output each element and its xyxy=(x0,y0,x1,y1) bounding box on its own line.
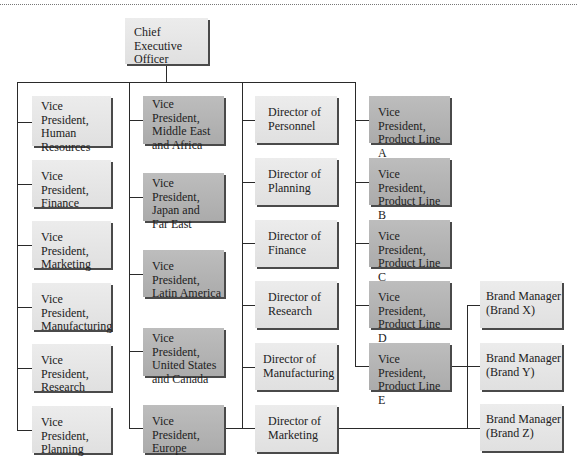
box-vp-marketing[interactable]: Vice President, Marketing xyxy=(32,221,111,268)
stub xyxy=(129,197,143,198)
box-director-personnel[interactable]: Director of Personnel xyxy=(255,96,337,143)
box-label: Vice President, Research xyxy=(41,354,111,395)
stub xyxy=(355,305,369,306)
stub xyxy=(242,182,255,183)
box-vp-us-canada[interactable]: Vice President, United States and Canada xyxy=(143,328,224,376)
stub xyxy=(355,182,369,183)
box-vp-finance[interactable]: Vice President, Finance xyxy=(32,160,111,207)
box-vp-human-resources[interactable]: Vice President, Human Resources xyxy=(32,96,111,146)
box-label: Vice President, Product Line E xyxy=(378,353,450,407)
box-director-marketing[interactable]: Director of Marketing xyxy=(255,405,337,452)
box-label: Director of Planning xyxy=(268,168,337,195)
box-label: Director of Finance xyxy=(268,230,337,257)
box-label: Director of Personnel xyxy=(268,106,337,133)
box-vp-europe[interactable]: Vice President, Europe xyxy=(143,405,224,453)
stub xyxy=(17,245,32,246)
box-vp-product-line-e[interactable]: Vice President, Product Line E xyxy=(369,343,450,390)
stub xyxy=(129,120,143,121)
stub xyxy=(17,184,32,185)
brand-vertical-line xyxy=(467,305,468,429)
box-label: Vice President, Latin America xyxy=(152,260,224,301)
product-e-brand-connector xyxy=(450,366,480,367)
box-brand-manager-x[interactable]: Brand Manager (Brand X) xyxy=(480,281,562,328)
stub xyxy=(242,120,255,121)
col3-vertical-line xyxy=(242,82,243,428)
box-vp-product-line-a[interactable]: Vice President, Product Line A xyxy=(369,96,450,143)
box-label: Vice President, Product Line B xyxy=(378,168,450,222)
box-label: Vice President, Manufacturing xyxy=(41,293,111,334)
col4-top-connector xyxy=(322,82,356,83)
stub xyxy=(355,366,369,367)
box-vp-manufacturing[interactable]: Vice President, Manufacturing xyxy=(32,283,111,330)
box-label: Vice President, Product Line D xyxy=(378,291,450,345)
main-horizontal-line xyxy=(17,82,323,83)
stub xyxy=(355,120,369,121)
box-vp-middle-east-africa[interactable]: Vice President, Middle East and Africa xyxy=(143,96,224,144)
col1-vertical-line xyxy=(17,82,18,431)
box-label: Vice President, Middle East and Africa xyxy=(152,98,224,152)
box-director-research[interactable]: Director of Research xyxy=(255,281,337,328)
box-label: Vice President, Finance xyxy=(41,170,111,211)
box-vp-product-line-d[interactable]: Vice President, Product Line D xyxy=(369,281,450,328)
ceo-box[interactable]: Chief Executive Officer xyxy=(125,18,208,64)
box-label: Vice President, Marketing xyxy=(41,231,111,272)
marketing-brand-connector xyxy=(337,428,480,429)
box-brand-manager-y[interactable]: Brand Manager (Brand Y) xyxy=(480,343,562,390)
box-director-manufacturing[interactable]: Director of Manufacturing xyxy=(255,343,337,390)
box-vp-japan-far-east[interactable]: Vice President, Japan and Far East xyxy=(143,173,224,221)
box-label: Director of Research xyxy=(268,291,337,318)
col2-vertical-line xyxy=(129,82,130,428)
stub xyxy=(17,307,32,308)
box-vp-latin-america[interactable]: Vice President, Latin America xyxy=(143,250,224,297)
box-label: Vice President, Planning xyxy=(41,416,111,457)
box-label: Brand Manager (Brand Z) xyxy=(486,413,562,440)
box-label: Vice President, Product Line A xyxy=(378,106,450,160)
box-label: Director of Marketing xyxy=(268,415,337,442)
box-brand-manager-z[interactable]: Brand Manager (Brand Z) xyxy=(480,404,562,451)
stub xyxy=(129,274,143,275)
stub xyxy=(242,367,255,368)
ceo-drop-line xyxy=(166,64,167,82)
box-vp-planning[interactable]: Vice President, Planning xyxy=(32,406,111,453)
box-label: Vice President, Japan and Far East xyxy=(152,177,224,231)
box-label: Vice President, United States and Canada xyxy=(152,332,224,386)
stub xyxy=(17,122,32,123)
europe-connector xyxy=(224,428,255,429)
col4-vertical-line-main xyxy=(355,82,356,367)
stub xyxy=(17,368,32,369)
box-label: Brand Manager (Brand X) xyxy=(486,290,562,317)
box-vp-product-line-c[interactable]: Vice President, Product Line C xyxy=(369,220,450,267)
box-label: Vice President, Product Line C xyxy=(378,230,450,284)
stub xyxy=(467,305,480,306)
box-label: Vice President, Europe xyxy=(152,415,224,456)
stub xyxy=(129,351,143,352)
ceo-label: Chief Executive Officer xyxy=(134,26,208,67)
stub xyxy=(242,243,255,244)
stub xyxy=(129,428,143,429)
box-director-finance[interactable]: Director of Finance xyxy=(255,220,337,267)
stub xyxy=(17,430,32,431)
box-director-planning[interactable]: Director of Planning xyxy=(255,158,337,205)
box-vp-research[interactable]: Vice President, Research xyxy=(32,344,111,391)
box-label: Brand Manager (Brand Y) xyxy=(486,352,562,379)
stub xyxy=(355,243,369,244)
box-vp-product-line-b[interactable]: Vice President, Product Line B xyxy=(369,158,450,205)
box-label: Director of Manufacturing xyxy=(263,353,337,380)
top-rule xyxy=(0,4,577,5)
box-label: Vice President, Human Resources xyxy=(41,100,111,154)
stub xyxy=(242,305,255,306)
